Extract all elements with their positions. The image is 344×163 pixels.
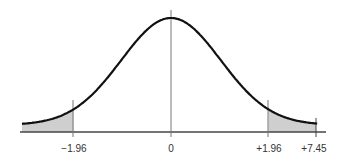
tick-label-zero: 0	[168, 143, 174, 154]
normal-distribution-chart: −1.96 0 +1.96 +7.45	[0, 0, 344, 163]
tick-label-stat: +7.45	[301, 143, 326, 154]
tick-label-neg: −1.96	[61, 143, 86, 154]
normal-curve	[22, 18, 317, 124]
tick-label-pos: +1.96	[256, 143, 281, 154]
chart-svg	[0, 0, 344, 163]
